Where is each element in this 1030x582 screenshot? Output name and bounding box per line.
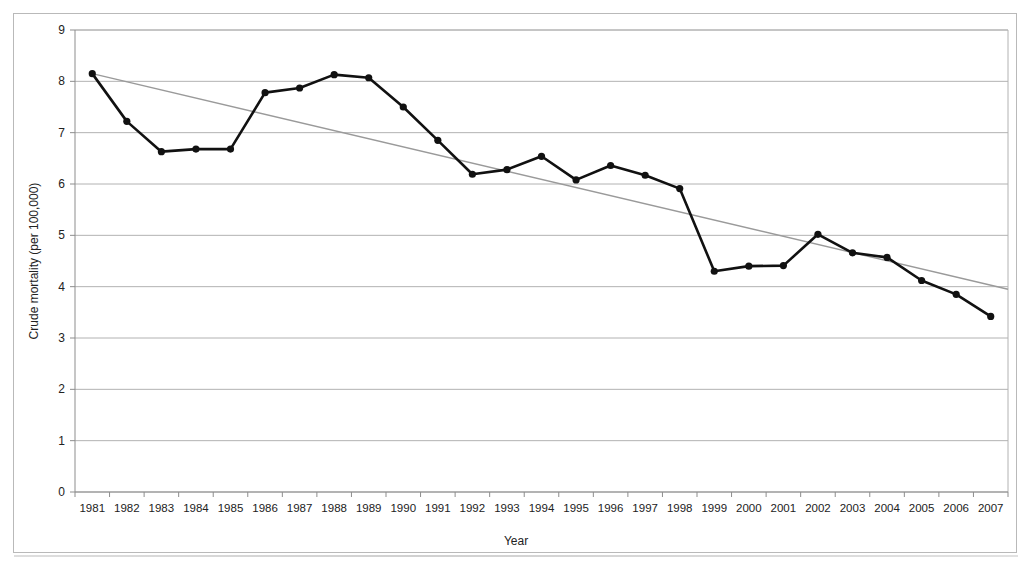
- data-point-2002: [814, 231, 821, 238]
- data-point-1988: [331, 71, 338, 78]
- x-tick-label-1982: 1982: [114, 502, 140, 514]
- data-point-1989: [365, 74, 372, 81]
- x-tick-label-1988: 1988: [321, 502, 347, 514]
- x-tick-label-2006: 2006: [943, 502, 969, 514]
- x-tick-label-1989: 1989: [356, 502, 382, 514]
- y-axis-tick-labels-group: 0123456789: [58, 23, 65, 499]
- axes-group: [75, 30, 1008, 492]
- line-chart: 0123456789 19811982198319841985198619871…: [0, 0, 1030, 582]
- data-point-1986: [261, 89, 268, 96]
- x-tick-label-1997: 1997: [632, 502, 658, 514]
- data-point-2005: [918, 277, 925, 284]
- linear-trend-line: [92, 74, 1008, 290]
- x-axis-ticks-group: [75, 492, 1008, 497]
- data-point-1983: [158, 148, 165, 155]
- x-tick-label-1985: 1985: [218, 502, 244, 514]
- y-tick-label-2: 2: [58, 382, 65, 396]
- data-point-1992: [469, 171, 476, 178]
- y-tick-label-3: 3: [58, 331, 65, 345]
- y-tick-label-6: 6: [58, 177, 65, 191]
- data-point-1987: [296, 84, 303, 91]
- y-tick-label-0: 0: [58, 485, 65, 499]
- data-point-2001: [780, 262, 787, 269]
- figure-container: 0123456789 19811982198319841985198619871…: [0, 0, 1030, 582]
- data-point-1995: [572, 176, 579, 183]
- x-tick-label-1992: 1992: [460, 502, 486, 514]
- crude-mortality-line: [92, 74, 990, 317]
- x-tick-label-1981: 1981: [79, 502, 105, 514]
- data-point-2007: [987, 313, 994, 320]
- data-point-1982: [123, 118, 130, 125]
- y-tick-label-8: 8: [58, 74, 65, 88]
- cut-off-caption-text: [0, 572, 1030, 582]
- x-axis-tick-labels-group: 1981198219831984198519861987198819891990…: [79, 502, 1003, 514]
- x-tick-label-1999: 1999: [701, 502, 727, 514]
- data-point-markers-group: [89, 70, 995, 320]
- data-point-1993: [503, 166, 510, 173]
- data-point-2000: [745, 263, 752, 270]
- x-tick-label-2001: 2001: [771, 502, 797, 514]
- x-tick-label-1986: 1986: [252, 502, 278, 514]
- data-point-1999: [711, 268, 718, 275]
- data-point-1994: [538, 153, 545, 160]
- x-tick-label-1983: 1983: [149, 502, 175, 514]
- data-point-1981: [89, 70, 96, 77]
- x-tick-label-1991: 1991: [425, 502, 451, 514]
- data-series-group: [92, 74, 990, 317]
- data-point-1990: [400, 103, 407, 110]
- data-point-2006: [953, 291, 960, 298]
- x-tick-label-1995: 1995: [563, 502, 589, 514]
- y-axis-ticks-group: [70, 30, 75, 492]
- y-tick-label-5: 5: [58, 228, 65, 242]
- x-tick-label-1994: 1994: [529, 502, 555, 514]
- x-tick-label-1993: 1993: [494, 502, 520, 514]
- x-axis-title: Year: [504, 534, 528, 548]
- x-tick-label-2000: 2000: [736, 502, 762, 514]
- x-tick-label-2003: 2003: [840, 502, 866, 514]
- data-point-2003: [849, 249, 856, 256]
- y-tick-label-4: 4: [58, 280, 65, 294]
- x-tick-label-2002: 2002: [805, 502, 831, 514]
- trend-line-group: [92, 74, 1008, 290]
- data-point-1991: [434, 137, 441, 144]
- data-point-1997: [642, 172, 649, 179]
- y-tick-label-1: 1: [58, 434, 65, 448]
- x-tick-label-1990: 1990: [390, 502, 416, 514]
- y-axis-title: Crude mortality (per 100,000): [27, 183, 41, 340]
- x-tick-label-2007: 2007: [978, 502, 1004, 514]
- y-tick-label-9: 9: [58, 23, 65, 37]
- data-point-1984: [192, 145, 199, 152]
- data-point-2004: [883, 254, 890, 261]
- x-tick-label-1998: 1998: [667, 502, 693, 514]
- x-tick-label-1984: 1984: [183, 502, 209, 514]
- x-tick-label-1987: 1987: [287, 502, 313, 514]
- x-tick-label-2005: 2005: [909, 502, 935, 514]
- gridlines-group: [75, 30, 1008, 492]
- x-tick-label-2004: 2004: [874, 502, 900, 514]
- data-point-1998: [676, 185, 683, 192]
- data-point-1996: [607, 162, 614, 169]
- x-tick-label-1996: 1996: [598, 502, 624, 514]
- y-tick-label-7: 7: [58, 126, 65, 140]
- data-point-1985: [227, 145, 234, 152]
